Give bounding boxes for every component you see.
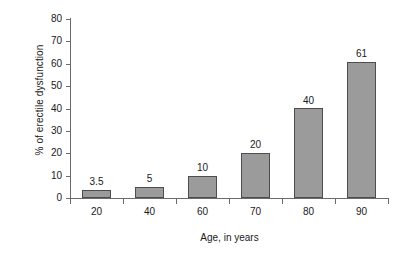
y-axis-tick-label: 60 <box>40 59 62 69</box>
x-axis-tick-label: 60 <box>176 206 229 217</box>
x-axis-tick <box>229 199 230 204</box>
bar-value-label: 5 <box>123 173 176 184</box>
bar-value-label: 20 <box>229 139 282 150</box>
y-axis-tick-label: 80 <box>40 14 62 24</box>
bar <box>82 190 111 198</box>
bar-value-label: 3.5 <box>70 176 123 187</box>
y-axis-tick-label-text: 0 <box>42 193 62 203</box>
y-axis-tick-label-text: 80 <box>42 14 62 24</box>
x-axis-tick-label: 90 <box>335 206 388 217</box>
y-axis-title: % of erectile dysfunction <box>26 0 52 200</box>
bar <box>135 187 164 198</box>
bar <box>241 153 270 198</box>
y-axis-tick-label: 70 <box>40 36 62 46</box>
bar <box>347 62 376 198</box>
x-axis-tick <box>335 199 336 204</box>
y-axis-tick-label-text: 20 <box>42 148 62 158</box>
plot-area <box>70 19 388 198</box>
y-axis-tick-label: 30 <box>40 126 62 136</box>
x-axis-tick <box>282 199 283 204</box>
x-axis-tick-label: 20 <box>70 206 123 217</box>
x-axis-tick <box>388 199 389 204</box>
bar <box>188 176 217 198</box>
x-axis-tick-label: 80 <box>282 206 335 217</box>
x-axis-title: Age, in years <box>70 232 389 244</box>
y-axis-tick-label: 50 <box>40 81 62 91</box>
y-axis-tick-label-text: 30 <box>42 126 62 136</box>
y-axis-tick-label: 10 <box>40 171 62 181</box>
y-axis-tick-label-text: 40 <box>42 104 62 114</box>
y-axis-tick-label: 0 <box>40 193 62 203</box>
x-axis-tick <box>70 199 71 204</box>
x-axis-tick-label: 70 <box>229 206 282 217</box>
bar-value-label: 10 <box>176 162 229 173</box>
bar <box>294 108 323 198</box>
y-axis-tick-label-text: 70 <box>42 36 62 46</box>
y-axis-tick-label-text: 10 <box>42 171 62 181</box>
bar-value-label: 61 <box>335 48 388 59</box>
bar-value-label: 40 <box>282 95 335 106</box>
x-axis-tick-label: 40 <box>123 206 176 217</box>
y-axis-tick-label: 20 <box>40 148 62 158</box>
y-axis-tick-label: 40 <box>40 104 62 114</box>
x-axis-tick <box>176 199 177 204</box>
y-axis-tick-label-text: 50 <box>42 81 62 91</box>
x-axis-tick <box>123 199 124 204</box>
y-axis-tick-label-text: 60 <box>42 59 62 69</box>
bar-chart: % of erectile dysfunction 01020304050607… <box>0 0 416 256</box>
